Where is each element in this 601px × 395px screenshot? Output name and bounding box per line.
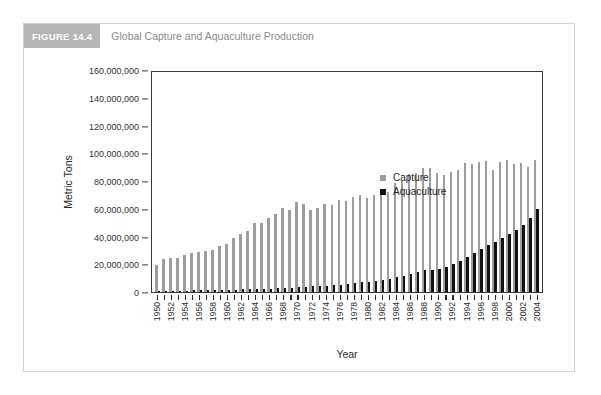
bar-aquaculture — [459, 261, 461, 292]
bar-group — [175, 72, 182, 292]
bar-aquaculture — [270, 289, 272, 292]
bar-group — [168, 72, 175, 292]
chart-legend: Capture Aquaculture — [380, 172, 446, 200]
bar-capture — [281, 208, 283, 292]
legend-item-capture: Capture — [380, 172, 446, 183]
x-axis-tick-mark — [234, 295, 235, 300]
bar-group — [449, 72, 456, 292]
x-axis-tick-mark — [290, 295, 291, 300]
x-axis-tick-mark — [452, 295, 453, 300]
x-axis-tick-slot: 1986 — [407, 295, 414, 345]
y-axis-tick-label: 140,000,000 — [89, 94, 139, 104]
bar-group — [371, 72, 378, 292]
bar-aquaculture — [389, 279, 391, 292]
y-axis-tick-mark — [142, 98, 148, 99]
x-axis-tick-slot: 2002 — [519, 295, 526, 345]
bar-capture — [302, 204, 304, 292]
bar-aquaculture — [515, 230, 517, 292]
x-axis-tick-mark — [523, 295, 524, 300]
y-axis-tick-mark — [142, 265, 148, 266]
bar-group — [505, 72, 512, 292]
bar-capture — [366, 198, 368, 292]
bar-aquaculture — [291, 288, 293, 292]
x-axis-tick-mark — [276, 295, 277, 300]
bar-group — [329, 72, 336, 292]
x-axis-tick-mark — [185, 295, 186, 300]
x-axis-tick-mark — [305, 295, 306, 300]
x-axis-tick-slot: 1994 — [463, 295, 470, 345]
x-axis-tick-mark — [199, 295, 200, 300]
x-axis-tick-slot: 1992 — [449, 295, 456, 345]
x-axis-tick-mark — [269, 295, 270, 300]
bar-capture — [225, 244, 227, 292]
y-axis-tick-label: 0 — [134, 288, 139, 298]
bar-aquaculture — [249, 289, 251, 292]
legend-swatch-aquaculture — [380, 189, 386, 195]
bar-aquaculture — [438, 269, 440, 292]
y-axis-tick-label: 100,000,000 — [89, 149, 139, 159]
x-axis-tick-label: 2004 — [532, 302, 542, 321]
bar-aquaculture — [242, 289, 244, 292]
y-axis-tick-mark — [142, 292, 148, 293]
bar-aquaculture — [480, 249, 482, 292]
x-axis-tick-slot: 1996 — [477, 295, 484, 345]
x-axis-tick-mark — [241, 295, 242, 300]
bar-capture — [239, 234, 241, 292]
x-axis-tick-slot: 1970 — [294, 295, 301, 345]
bar-aquaculture — [403, 276, 405, 292]
y-axis-tick-mark — [142, 181, 148, 182]
bar-capture — [387, 192, 389, 292]
x-axis-tick-mark — [340, 295, 341, 300]
bar-aquaculture — [431, 270, 433, 292]
bar-group — [203, 72, 210, 292]
bar-capture — [204, 251, 206, 292]
x-axis-tick-mark — [488, 295, 489, 300]
bar-group — [154, 72, 161, 292]
x-axis-tick-mark — [283, 295, 284, 300]
x-axis-tick-slot: 2000 — [505, 295, 512, 345]
x-axis-tick-mark — [312, 295, 313, 300]
bar-group — [491, 72, 498, 292]
x-axis-tick-mark — [227, 295, 228, 300]
bar-group — [350, 72, 357, 292]
bar-aquaculture — [494, 242, 496, 292]
x-axis-tick-slot: 1964 — [252, 295, 259, 345]
figure-header: FIGURE 14.4 Global Capture and Aquacultu… — [24, 24, 574, 48]
bar-group — [210, 72, 217, 292]
x-axis-tick-mark — [502, 295, 503, 300]
y-axis-tick-label: 20,000,000 — [94, 260, 139, 270]
bar-group — [294, 72, 301, 292]
bar-group — [498, 72, 505, 292]
y-axis-tick-mark — [142, 209, 148, 210]
bar-group — [357, 72, 364, 292]
bar-group — [463, 72, 470, 292]
y-axis-tick-mark — [142, 237, 148, 238]
bar-group — [526, 72, 533, 292]
bar-aquaculture — [522, 225, 524, 292]
x-axis-tick-mark — [248, 295, 249, 300]
bar-capture — [211, 250, 213, 292]
bar-group — [477, 72, 484, 292]
bar-aquaculture — [361, 282, 363, 292]
x-axis-tick-mark — [192, 295, 193, 300]
bar-aquaculture — [179, 291, 181, 292]
bar-group — [322, 72, 329, 292]
bar-aquaculture — [319, 286, 321, 292]
figure-number-badge: FIGURE 14.4 — [24, 24, 100, 48]
x-axis-tick-mark — [164, 295, 165, 300]
x-axis-tick-slot: 1972 — [308, 295, 315, 345]
x-axis-tick-slot: 1958 — [209, 295, 216, 345]
x-axis-tick-slot: 1966 — [266, 295, 273, 345]
x-axis-tick-mark — [389, 295, 390, 300]
bar-capture — [267, 218, 269, 293]
bar-capture — [352, 197, 354, 292]
bar-aquaculture — [410, 274, 412, 292]
x-axis-tick-slot: 1976 — [336, 295, 343, 345]
x-axis-tick-mark — [417, 295, 418, 300]
bar-group — [231, 72, 238, 292]
bar-aquaculture — [333, 285, 335, 292]
bar-aquaculture — [536, 209, 538, 292]
x-axis-tick-slot: 1984 — [393, 295, 400, 345]
bar-capture — [183, 255, 185, 292]
bar-aquaculture — [452, 264, 454, 292]
